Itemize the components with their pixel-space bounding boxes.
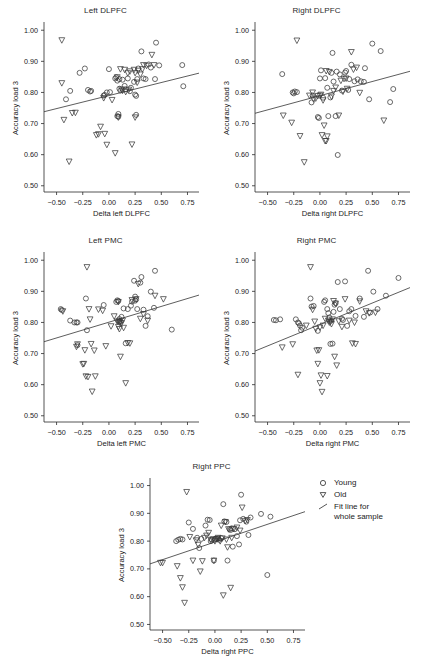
svg-text:Delta right PMC: Delta right PMC bbox=[306, 439, 360, 448]
svg-text:0.25: 0.25 bbox=[339, 198, 353, 207]
svg-text:Delta left PMC: Delta left PMC bbox=[97, 439, 146, 448]
svg-text:0.00: 0.00 bbox=[313, 198, 327, 207]
svg-text:1.00: 1.00 bbox=[235, 256, 249, 265]
svg-text:0.80: 0.80 bbox=[235, 88, 249, 97]
svg-text:0.50: 0.50 bbox=[154, 428, 168, 437]
svg-text:0.00: 0.00 bbox=[102, 198, 116, 207]
svg-text:0.60: 0.60 bbox=[24, 380, 38, 389]
svg-text:−0.25: −0.25 bbox=[74, 428, 92, 437]
svg-text:0.70: 0.70 bbox=[24, 119, 38, 128]
svg-text:0.80: 0.80 bbox=[235, 318, 249, 327]
legend: Young Old Fit line for whole sample bbox=[318, 477, 418, 527]
svg-text:0.60: 0.60 bbox=[130, 592, 144, 601]
svg-text:−0.50: −0.50 bbox=[153, 636, 171, 645]
svg-text:Accuracy load 3: Accuracy load 3 bbox=[11, 81, 20, 135]
legend-item-young: Young bbox=[318, 477, 418, 489]
svg-text:0.25: 0.25 bbox=[339, 428, 353, 437]
plot-area: 0.500.600.700.800.901.00−0.50−0.250.000.… bbox=[0, 236, 211, 460]
panel-right-pmc: Right PMC 0.500.600.700.800.901.00−0.50−… bbox=[211, 236, 422, 460]
legend-item-old: Old bbox=[318, 489, 418, 501]
svg-text:0.50: 0.50 bbox=[365, 198, 379, 207]
svg-text:0.50: 0.50 bbox=[235, 181, 249, 190]
svg-text:1.00: 1.00 bbox=[130, 481, 144, 490]
svg-text:−0.50: −0.50 bbox=[47, 428, 65, 437]
svg-text:0.90: 0.90 bbox=[130, 509, 144, 518]
svg-text:0.70: 0.70 bbox=[235, 119, 249, 128]
legend-label-fit-line-2: whole sample bbox=[334, 511, 383, 522]
svg-text:0.50: 0.50 bbox=[24, 411, 38, 420]
legend-label-young: Young bbox=[334, 477, 356, 488]
svg-text:0.00: 0.00 bbox=[102, 428, 116, 437]
plot-area: 0.500.600.700.800.901.00−0.50−0.250.000.… bbox=[0, 6, 211, 230]
svg-text:0.90: 0.90 bbox=[24, 287, 38, 296]
svg-text:0.60: 0.60 bbox=[24, 150, 38, 159]
svg-text:0.70: 0.70 bbox=[235, 349, 249, 358]
panel-left-pmc: Left PMC 0.500.600.700.800.901.00−0.50−0… bbox=[0, 236, 211, 460]
svg-text:0.50: 0.50 bbox=[24, 181, 38, 190]
svg-text:Accuracy load 3: Accuracy load 3 bbox=[222, 81, 231, 135]
svg-text:0.90: 0.90 bbox=[24, 57, 38, 66]
plot-area: 0.500.600.700.800.901.00−0.50−0.250.000.… bbox=[211, 236, 422, 460]
svg-text:−0.50: −0.50 bbox=[258, 428, 276, 437]
svg-text:0.80: 0.80 bbox=[24, 88, 38, 97]
svg-text:Delta left DLPFC: Delta left DLPFC bbox=[93, 209, 150, 218]
svg-text:1.00: 1.00 bbox=[24, 26, 38, 35]
svg-text:1.00: 1.00 bbox=[24, 256, 38, 265]
svg-text:0.75: 0.75 bbox=[391, 198, 405, 207]
svg-text:0.90: 0.90 bbox=[235, 287, 249, 296]
svg-text:0.60: 0.60 bbox=[235, 380, 249, 389]
panel-left-dlpfc: Left DLPFC 0.500.600.700.800.901.00−0.50… bbox=[0, 6, 211, 230]
svg-text:−0.25: −0.25 bbox=[285, 198, 303, 207]
circle-marker bbox=[318, 477, 331, 488]
svg-text:−0.25: −0.25 bbox=[180, 636, 198, 645]
svg-text:Accuracy load 3: Accuracy load 3 bbox=[222, 311, 231, 365]
svg-text:0.75: 0.75 bbox=[286, 636, 300, 645]
svg-text:Delta right PPC: Delta right PPC bbox=[201, 647, 254, 656]
svg-text:0.25: 0.25 bbox=[128, 428, 142, 437]
svg-text:0.80: 0.80 bbox=[24, 318, 38, 327]
svg-text:0.25: 0.25 bbox=[234, 636, 248, 645]
fit-line-marker bbox=[318, 501, 331, 512]
svg-text:0.00: 0.00 bbox=[208, 636, 222, 645]
svg-text:1.00: 1.00 bbox=[235, 26, 249, 35]
svg-text:Accuracy load 3: Accuracy load 3 bbox=[11, 311, 20, 365]
svg-text:0.50: 0.50 bbox=[235, 411, 249, 420]
svg-text:0.75: 0.75 bbox=[180, 428, 194, 437]
legend-label-old: Old bbox=[334, 489, 346, 500]
svg-text:−0.50: −0.50 bbox=[258, 198, 276, 207]
svg-text:−0.50: −0.50 bbox=[47, 198, 65, 207]
svg-text:0.00: 0.00 bbox=[313, 428, 327, 437]
legend-item-fit-line: Fit line for whole sample bbox=[318, 501, 418, 523]
svg-text:0.70: 0.70 bbox=[24, 349, 38, 358]
svg-text:0.60: 0.60 bbox=[235, 150, 249, 159]
svg-text:0.75: 0.75 bbox=[180, 198, 194, 207]
svg-text:0.50: 0.50 bbox=[365, 428, 379, 437]
svg-text:−0.25: −0.25 bbox=[74, 198, 92, 207]
svg-text:0.50: 0.50 bbox=[130, 620, 144, 629]
svg-text:0.75: 0.75 bbox=[391, 428, 405, 437]
triangle-down-marker bbox=[318, 489, 331, 500]
svg-text:0.80: 0.80 bbox=[130, 537, 144, 546]
svg-text:0.50: 0.50 bbox=[260, 636, 274, 645]
panel-right-dlpfc: Right DLPFC 0.500.600.700.800.901.00−0.5… bbox=[211, 6, 422, 230]
svg-text:Accuracy load 3: Accuracy load 3 bbox=[117, 528, 126, 582]
svg-text:0.70: 0.70 bbox=[130, 564, 144, 573]
svg-text:0.50: 0.50 bbox=[154, 198, 168, 207]
svg-text:Delta right DLPFC: Delta right DLPFC bbox=[302, 209, 364, 218]
figure-scatter-grid: Left DLPFC 0.500.600.700.800.901.00−0.50… bbox=[0, 0, 422, 668]
svg-text:0.25: 0.25 bbox=[128, 198, 142, 207]
panel-right-ppc: Right PPC 0.500.600.700.800.901.00−0.50−… bbox=[106, 462, 317, 668]
plot-area: 0.500.600.700.800.901.00−0.50−0.250.000.… bbox=[211, 6, 422, 230]
plot-area: 0.500.600.700.800.901.00−0.50−0.250.000.… bbox=[106, 462, 317, 668]
svg-text:−0.25: −0.25 bbox=[285, 428, 303, 437]
svg-text:0.90: 0.90 bbox=[235, 57, 249, 66]
